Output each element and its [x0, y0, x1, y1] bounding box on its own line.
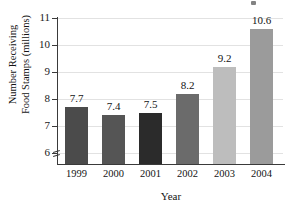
x-axis-title: Year	[57, 190, 285, 202]
bar[interactable]	[139, 113, 162, 164]
x-axis-line	[57, 164, 285, 165]
bar[interactable]	[213, 67, 236, 164]
bar[interactable]	[102, 115, 125, 164]
bar-slot: 7.5	[132, 18, 169, 164]
x-axis-tick-label: 2000	[95, 168, 132, 179]
bar-chart-figure: 67891011 7.77.47.58.29.210.6 19992000200…	[0, 0, 294, 215]
x-axis-tick-label: 2003	[206, 168, 243, 179]
bar-value-label: 10.6	[243, 15, 280, 26]
bar-slot: 8.2	[169, 18, 206, 164]
bar-slot: 7.7	[58, 18, 95, 164]
bar-slot: 9.2	[206, 18, 243, 164]
bar-value-label: 7.4	[95, 101, 132, 112]
bar-slot: 10.6	[243, 18, 280, 164]
bar-series: 7.77.47.58.29.210.6	[57, 18, 285, 164]
bar[interactable]	[250, 29, 273, 164]
bar-value-label: 9.2	[206, 53, 243, 64]
bar[interactable]	[176, 94, 199, 164]
x-axis-tick-label: 1999	[58, 168, 95, 179]
bar-value-label: 8.2	[169, 80, 206, 91]
y-axis-title-line-1: Number Receiving	[7, 0, 20, 140]
bar-value-label: 7.5	[132, 99, 169, 110]
x-axis-tick-label: 2002	[169, 168, 206, 179]
y-axis-title-line-2: Food Stamps (millions)	[19, 0, 32, 140]
x-axis-tick-label: 2001	[132, 168, 169, 179]
scan-artifact	[251, 1, 256, 5]
x-axis-tick-label: 2004	[243, 168, 280, 179]
y-axis-title-wrap: Number Receiving Food Stamps (millions)	[0, 0, 46, 215]
bar-slot: 7.4	[95, 18, 132, 164]
y-axis-title: Number Receiving Food Stamps (millions)	[7, 0, 32, 140]
bar[interactable]	[65, 107, 88, 164]
bar-value-label: 7.7	[58, 93, 95, 104]
